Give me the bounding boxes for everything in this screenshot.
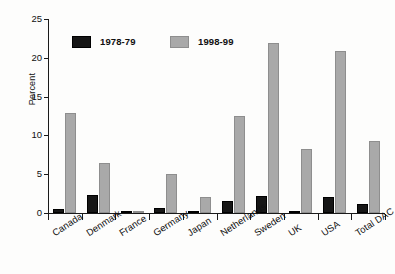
y-axis-tick-label: 15 [20, 92, 42, 102]
x-axis-tick-mark [351, 214, 352, 220]
bar-germany-1998-99 [166, 174, 177, 213]
bar-total-dac-1998-99 [369, 141, 380, 213]
bar-netherlands-1998-99 [234, 116, 245, 213]
y-axis-tick-label: 25 [20, 14, 42, 24]
x-axis-tick-mark [48, 214, 49, 220]
bar-netherlands-1978-79 [222, 201, 233, 213]
x-axis-label-canada: Canada [50, 210, 84, 238]
bar-usa-1998-99 [335, 51, 346, 213]
bar-canada-1998-99 [65, 113, 76, 213]
bar-japan-1978-79 [188, 211, 199, 213]
bar-france-1978-79 [121, 211, 132, 213]
bar-denmark-1998-99 [99, 163, 110, 213]
x-axis-label-usa: USA [319, 218, 342, 238]
x-axis-label-uk: UK [286, 222, 303, 239]
legend-entry-1978-79: 1978-79 [72, 32, 136, 46]
y-axis-tick-label: 20 [20, 53, 42, 63]
bar-uk-1978-79 [289, 211, 300, 213]
bar-canada-1978-79 [53, 209, 64, 213]
bar-usa-1978-79 [323, 197, 334, 213]
legend-label: 1978-79 [100, 36, 136, 47]
legend-label: 1998-99 [198, 36, 234, 47]
black-square-icon [72, 36, 91, 48]
bar-germany-1978-79 [154, 208, 165, 213]
legend-entry-1998-99: 1998-99 [170, 32, 234, 46]
y-axis-tick-label: 10 [20, 130, 42, 140]
x-axis-tick-mark [217, 214, 218, 220]
y-axis-title: Percent [27, 54, 37, 124]
x-axis-tick-mark [149, 214, 150, 220]
bar-denmark-1978-79 [87, 195, 98, 213]
bar-total-dac-1978-79 [357, 204, 368, 213]
plot-area [48, 19, 385, 213]
gray-square-icon [170, 36, 189, 48]
bar-uk-1998-99 [301, 149, 312, 213]
bar-sweden-1998-99 [268, 43, 279, 213]
bar-chart: Percent 0510152025 1978-791998-99 Canada… [0, 0, 395, 274]
y-axis-tick-label: 5 [20, 169, 42, 179]
x-axis-tick-mark [318, 214, 319, 220]
y-axis-tick-label: 0 [20, 208, 42, 218]
bar-japan-1998-99 [200, 197, 211, 213]
x-axis-label-japan: Japan [185, 215, 213, 239]
